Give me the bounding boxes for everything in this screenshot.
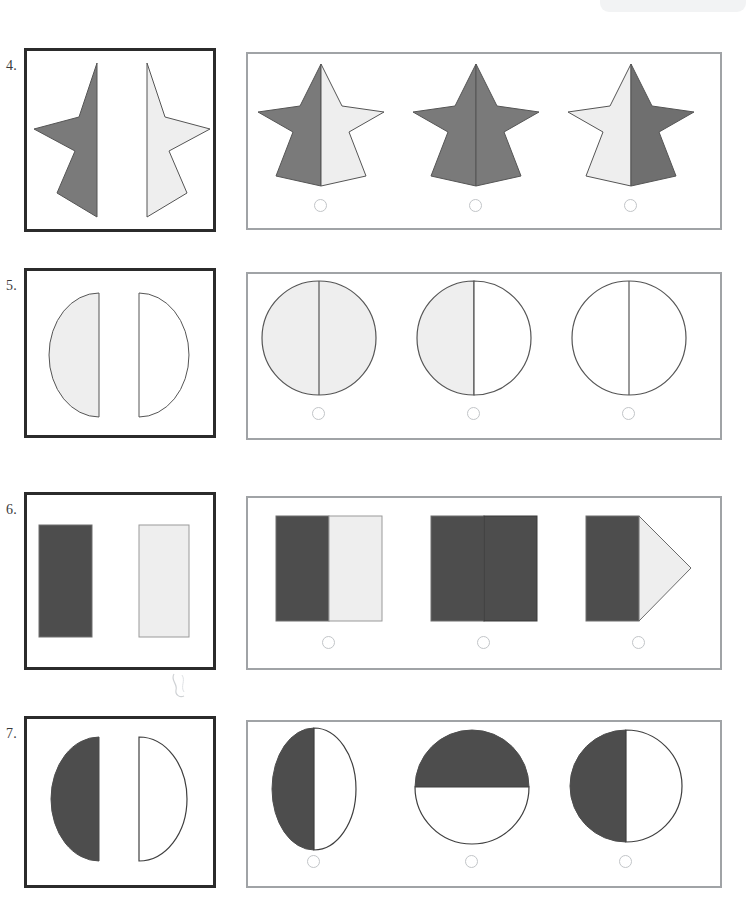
option-6-b-radio[interactable]: [477, 636, 490, 649]
option-5-a-shape[interactable]: [256, 274, 406, 404]
option-6-b-shape[interactable]: [411, 498, 561, 634]
option-4-a-shape[interactable]: [256, 54, 406, 194]
option-7-a[interactable]: [256, 722, 406, 886]
question-row-5: 5.: [0, 268, 754, 448]
semicircle-left-prompt: [49, 293, 99, 417]
semicircle-right-prompt: [139, 293, 189, 417]
question-row-7: 7.: [0, 716, 754, 896]
option-6-b[interactable]: [411, 498, 561, 668]
option-7-c[interactable]: [566, 722, 716, 886]
option-7-a-shape[interactable]: [256, 722, 406, 852]
option-5-b-radio[interactable]: [467, 407, 480, 420]
question-number-5: 5.: [6, 278, 17, 294]
semicircle-left-dark-prompt: [51, 737, 99, 861]
options-panel-6: [246, 496, 722, 670]
option-7-b-shape[interactable]: [411, 722, 561, 852]
option-4-c[interactable]: [566, 54, 716, 228]
cutoff-ui-chip: [600, 0, 746, 12]
option-7-c-shape[interactable]: [566, 722, 716, 852]
prompt-shapes-6: [27, 495, 213, 667]
options-panel-7: [246, 720, 722, 888]
rectangle-dark-prompt: [39, 525, 92, 637]
option-7-b[interactable]: [411, 722, 561, 886]
option-6-c-shape[interactable]: [566, 498, 716, 634]
option-6-a[interactable]: [256, 498, 406, 668]
option-5-a[interactable]: [256, 274, 406, 438]
prompt-box-6: [24, 492, 216, 670]
option-4-b-radio[interactable]: [469, 199, 482, 212]
prompt-box-7: [24, 716, 216, 888]
option-4-b[interactable]: [411, 54, 561, 228]
prompt-shapes-5: [27, 271, 213, 435]
options-panel-4: [246, 52, 722, 230]
option-4-b-shape[interactable]: [411, 54, 561, 194]
star-left-half-prompt: [34, 63, 97, 217]
option-5-c[interactable]: [566, 274, 716, 438]
option-7-b-radio[interactable]: [465, 855, 478, 868]
option-4-c-shape[interactable]: [566, 54, 716, 194]
prompt-box-5: [24, 268, 216, 438]
star-right-half-prompt: [147, 63, 210, 217]
option-5-c-shape[interactable]: [566, 274, 716, 404]
option-6-a-radio[interactable]: [322, 636, 335, 649]
option-5-c-radio[interactable]: [622, 407, 635, 420]
semicircle-right-white-prompt: [139, 737, 187, 861]
pencil-scribble-artifact: [160, 672, 200, 702]
prompt-box-4: [24, 48, 216, 232]
option-5-b[interactable]: [411, 274, 561, 438]
question-number-4: 4.: [6, 58, 17, 74]
worksheet-page: 4.: [0, 0, 754, 901]
question-row-6: 6.: [0, 492, 754, 676]
question-row-4: 4.: [0, 48, 754, 243]
prompt-shapes-7: [27, 719, 213, 885]
option-4-a[interactable]: [256, 54, 406, 228]
option-5-a-radio[interactable]: [312, 407, 325, 420]
question-number-6: 6.: [6, 502, 17, 518]
option-5-b-shape[interactable]: [411, 274, 561, 404]
option-4-c-radio[interactable]: [624, 199, 637, 212]
rectangle-light-prompt: [139, 525, 189, 637]
prompt-shapes-4: [27, 51, 213, 229]
options-panel-5: [246, 272, 722, 440]
option-6-c-radio[interactable]: [632, 636, 645, 649]
option-6-a-shape[interactable]: [256, 498, 406, 634]
option-7-a-radio[interactable]: [307, 855, 320, 868]
option-7-c-radio[interactable]: [619, 855, 632, 868]
option-4-a-radio[interactable]: [314, 199, 327, 212]
question-number-7: 7.: [6, 726, 17, 742]
option-6-c[interactable]: [566, 498, 716, 668]
